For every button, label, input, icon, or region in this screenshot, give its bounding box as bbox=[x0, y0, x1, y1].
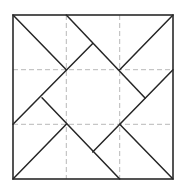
segment-tr-corner-diag bbox=[120, 15, 173, 70]
segment-right-anti-diag bbox=[93, 70, 173, 152]
segment-bl-corner-diag bbox=[13, 124, 66, 179]
diagram-canvas bbox=[0, 0, 178, 186]
dissected-square-diagram bbox=[0, 0, 178, 186]
solid-segments bbox=[13, 15, 173, 179]
segment-tl-corner-diag bbox=[13, 15, 66, 70]
segment-br-corner-diag bbox=[120, 124, 173, 179]
